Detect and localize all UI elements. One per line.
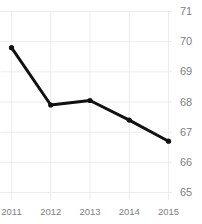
data-point-marker bbox=[127, 118, 132, 123]
x-axis-tick-label: 2011 bbox=[0, 207, 29, 217]
grid-lines bbox=[1, 12, 173, 201]
plot-area bbox=[0, 0, 202, 224]
data-point-marker bbox=[9, 45, 14, 50]
y-axis-tick-label: 67 bbox=[180, 127, 192, 138]
data-point-marker bbox=[87, 98, 92, 103]
x-axis-tick-label: 2014 bbox=[112, 207, 146, 217]
line-chart: 65666768697071 20112012201320142015 bbox=[0, 0, 202, 224]
y-axis-tick-label: 70 bbox=[180, 36, 192, 47]
data-point-marker bbox=[166, 139, 171, 144]
y-axis-tick-label: 65 bbox=[180, 187, 192, 198]
y-axis-tick-label: 68 bbox=[180, 97, 192, 108]
y-axis-tick-label: 69 bbox=[180, 66, 192, 77]
x-axis-tick-label: 2012 bbox=[34, 207, 68, 217]
x-axis-tick-label: 2013 bbox=[73, 207, 107, 217]
data-point-marker bbox=[48, 102, 53, 107]
y-axis-tick-label: 71 bbox=[180, 6, 192, 17]
y-axis-tick-label: 66 bbox=[180, 157, 192, 168]
x-axis-tick-label: 2015 bbox=[152, 207, 186, 217]
